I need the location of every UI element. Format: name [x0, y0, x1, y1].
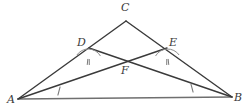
geometry-figure: A B C D E F [0, 0, 247, 110]
point-label-F: F [121, 65, 129, 76]
point-label-C: C [121, 2, 129, 13]
point-label-A: A [7, 94, 15, 105]
point-label-B: B [234, 92, 242, 103]
point-label-E: E [169, 37, 177, 48]
tick-AF [58, 87, 60, 95]
geometry-canvas [0, 0, 247, 110]
angle-arcs-group [77, 49, 179, 56]
segment-AB [18, 97, 232, 99]
segment-AE [18, 48, 167, 99]
segment-DB [89, 48, 232, 97]
segment-AC [18, 21, 126, 99]
angle-D-hash-2 [87, 59, 88, 64]
segment-CB [126, 21, 232, 97]
angle-E-hash-1 [168, 59, 169, 64]
segments-group [18, 21, 232, 99]
tick-FB [191, 84, 193, 92]
point-label-D: D [77, 37, 86, 48]
